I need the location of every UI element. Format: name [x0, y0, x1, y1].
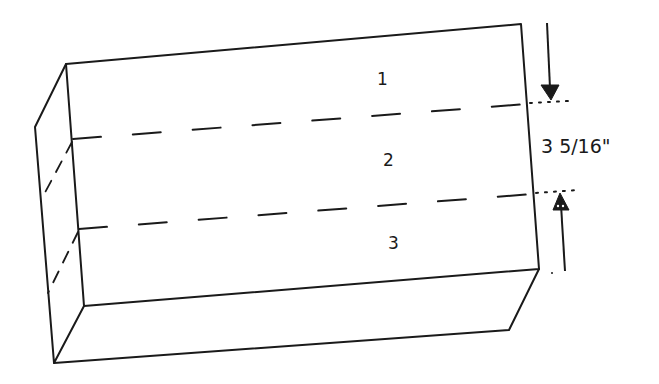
dimension-label: 3 5/16": [541, 137, 611, 156]
down-arrow-icon: [541, 23, 559, 100]
side-division-line-2: [48, 232, 78, 293]
division-line-1: [73, 104, 527, 139]
front-face: [66, 24, 539, 306]
division-line-2: [79, 194, 533, 229]
extension-line-bottom: [536, 190, 578, 193]
stray-dot: [551, 272, 553, 274]
section-label-3: 3: [388, 235, 399, 252]
extension-line-top: [530, 101, 568, 103]
block-drawing: [0, 0, 659, 384]
bottom-face: [54, 269, 539, 363]
side-division-line-1: [41, 142, 72, 200]
section-label-1: 1: [377, 71, 388, 88]
block-diagram: 1 2 3 3 5/16": [0, 0, 659, 384]
section-label-2: 2: [383, 152, 394, 169]
up-arrow-icon: [553, 193, 569, 271]
